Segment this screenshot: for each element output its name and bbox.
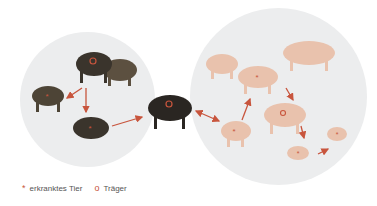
svg-text:*: * — [297, 150, 300, 157]
svg-text:*: * — [255, 73, 258, 82]
legend: *erkranktes Tier oTräger — [22, 183, 127, 193]
piglet-sick-2: * — [327, 127, 347, 141]
pig-sick-1: * — [238, 66, 278, 94]
piglet-sick-1: * — [287, 146, 309, 160]
svg-text:*: * — [45, 92, 48, 101]
transmission-diagram: * * * * * * — [0, 0, 377, 206]
boar-carrier-top — [76, 52, 112, 83]
legend-carrier: oTräger — [94, 183, 126, 193]
svg-text:*: * — [336, 131, 339, 138]
carrier-ring-icon: o — [94, 183, 99, 193]
svg-text:*: * — [88, 124, 91, 133]
svg-text:*: * — [232, 127, 235, 136]
boar-sick-left: * — [32, 86, 64, 112]
pig-sick-entry: * — [221, 121, 251, 147]
sick-star-icon: * — [22, 183, 26, 193]
pig-healthy-2 — [283, 41, 335, 71]
legend-sick: *erkranktes Tier — [22, 183, 82, 193]
boar-sick-bottom: * — [73, 117, 109, 139]
boar-carrier-center — [148, 95, 192, 129]
pig-healthy-1 — [206, 54, 238, 79]
pig-carrier — [264, 103, 306, 134]
